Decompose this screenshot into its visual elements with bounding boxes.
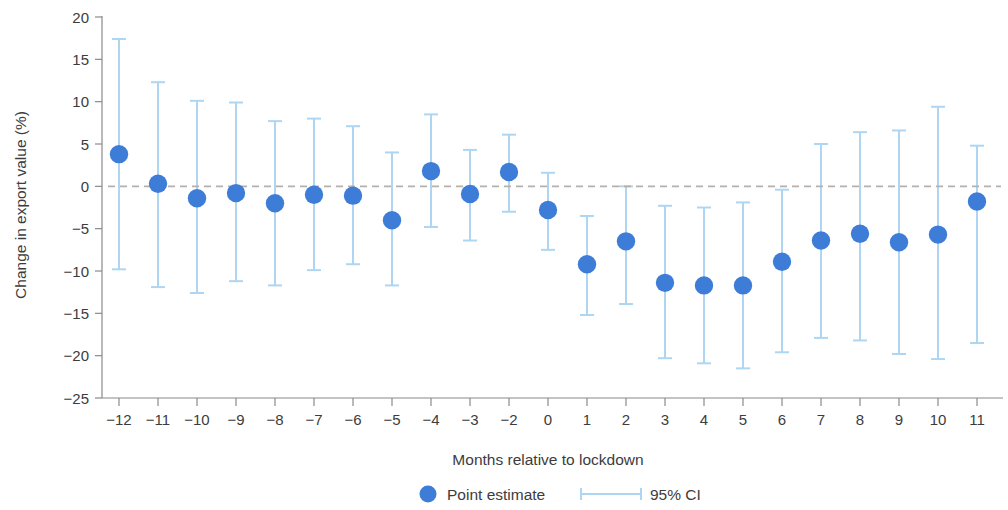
legend-point-estimate-label: Point estimate	[447, 486, 545, 503]
point-estimate-marker	[656, 274, 674, 292]
point-estimate-marker	[617, 232, 635, 250]
x-axis-tick-label: 7	[817, 411, 825, 428]
point-estimate-marker	[968, 192, 986, 210]
point-estimate-marker	[227, 184, 245, 202]
point-estimate-marker	[734, 276, 752, 294]
x-axis-tick-label: 2	[622, 411, 630, 428]
x-axis-tick-label: 3	[661, 411, 669, 428]
point-estimate-marker	[539, 201, 557, 219]
x-axis-tick-label: 11	[969, 411, 985, 428]
x-axis-tick-label: −5	[383, 411, 400, 428]
x-axis-tick-label: 8	[856, 411, 864, 428]
point-estimate-marker	[266, 194, 284, 212]
y-axis-tick-label: 15	[72, 51, 89, 68]
x-axis-tick-label: 4	[700, 411, 708, 428]
x-axis-tick-label: −12	[106, 411, 131, 428]
x-axis-tick-label: −6	[344, 411, 361, 428]
y-axis-tick-label: −20	[64, 347, 89, 364]
y-axis-tick-label: −15	[64, 305, 89, 322]
x-axis-tick-label: −10	[184, 411, 209, 428]
point-estimate-marker	[929, 225, 947, 243]
x-axis-tick-label: 5	[739, 411, 747, 428]
x-axis-tick-label: 10	[930, 411, 947, 428]
y-axis-tick-label: 0	[81, 178, 89, 195]
y-axis-tick-label: 20	[72, 9, 89, 26]
point-estimate-marker	[110, 145, 128, 163]
point-estimate-marker	[578, 255, 596, 273]
y-axis-title: Change in export value (%)	[12, 111, 29, 299]
x-axis-tick-label: −3	[461, 411, 478, 428]
point-estimate-marker	[383, 211, 401, 229]
x-axis-tick-label: 9	[895, 411, 903, 428]
point-estimate-marker	[188, 189, 206, 207]
point-estimate-marker	[851, 225, 869, 243]
point-estimate-marker	[461, 185, 479, 203]
point-estimate-marker	[305, 186, 323, 204]
chart-legend: Point estimate 95% CI	[420, 486, 701, 504]
x-axis-tick-label: −9	[227, 411, 244, 428]
y-axis-tick-label: 5	[81, 136, 89, 153]
point-estimate-marker	[500, 163, 518, 181]
x-axis-tick-label: −7	[305, 411, 322, 428]
point-estimate-marker	[812, 231, 830, 249]
forest-plot-figure: 20151050−5−10−15−20−25−12−11−10−9−8−7−6−…	[0, 0, 1008, 510]
y-axis-tick-label: −10	[64, 263, 89, 280]
x-axis-tick-label: −8	[266, 411, 283, 428]
x-axis-tick-label: −4	[422, 411, 439, 428]
x-axis-tick-label: 0	[544, 411, 552, 428]
legend-ci-label: 95% CI	[650, 486, 701, 503]
x-axis-tick-label: −11	[146, 411, 170, 428]
point-estimate-marker	[344, 186, 362, 204]
legend-point-estimate-swatch	[420, 486, 437, 503]
x-axis-tick-label: 6	[778, 411, 786, 428]
point-estimate-marker	[773, 252, 791, 270]
x-axis-title: Months relative to lockdown	[452, 451, 643, 468]
point-estimate-marker	[890, 233, 908, 251]
point-estimate-marker	[149, 175, 167, 193]
x-axis-tick-label: −2	[500, 411, 517, 428]
x-axis-tick-label: 1	[583, 411, 591, 428]
y-axis-tick-label: −25	[64, 390, 89, 407]
point-estimate-marker	[422, 162, 440, 180]
tick-labels-layer: 20151050−5−10−15−20−25−12−11−10−9−8−7−6−…	[64, 9, 985, 429]
point-estimate-marker	[695, 276, 713, 294]
y-axis-tick-label: −5	[72, 220, 89, 237]
y-axis-tick-label: 10	[72, 93, 89, 110]
